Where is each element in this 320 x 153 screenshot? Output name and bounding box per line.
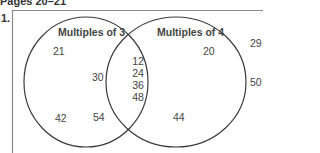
value-outside: 50 xyxy=(250,76,262,88)
value-only-3: 30 xyxy=(92,71,104,83)
value-intersection: 36 xyxy=(127,79,149,91)
set-label-multiples-of-3: Multiples of 3 xyxy=(58,26,125,38)
value-only-4: 44 xyxy=(173,111,185,123)
value-intersection: 24 xyxy=(127,67,149,79)
value-only-4: 20 xyxy=(203,45,215,57)
value-intersection: 48 xyxy=(127,91,149,103)
intersection-values: 12 24 36 48 xyxy=(127,55,149,103)
set-label-multiples-of-4: Multiples of 4 xyxy=(157,26,224,38)
value-only-3: 21 xyxy=(53,45,65,57)
value-intersection: 12 xyxy=(127,55,149,67)
value-only-3: 54 xyxy=(93,111,105,123)
value-only-3: 42 xyxy=(55,112,67,124)
value-outside: 29 xyxy=(250,37,262,49)
